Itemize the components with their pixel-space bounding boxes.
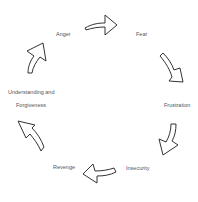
stage-label-understanding-line2: Forgiveness [16,103,46,109]
stage-label-insecurity: Insecurity [126,166,150,172]
stage-label-revenge: Revenge [53,165,75,171]
arrow-revenge-to-understanding-icon [18,121,44,151]
arrow-understanding-to-anger-icon [27,43,46,73]
arrow-frustration-to-insecurity-icon [159,124,178,155]
stage-label-understanding-line1: Understanding and [8,90,54,96]
cycle-arrows [0,0,198,202]
stage-label-fear: Fear [136,32,147,38]
arrow-insecurity-to-revenge-icon [83,164,116,183]
cycle-diagram: Anger Fear Frustration Insecurity Reveng… [0,0,198,202]
stage-label-frustration: Frustration [164,103,190,109]
stage-label-anger: Anger [56,32,71,38]
arrow-anger-to-fear-icon [85,15,117,35]
arrow-fear-to-frustration-icon [160,53,183,82]
